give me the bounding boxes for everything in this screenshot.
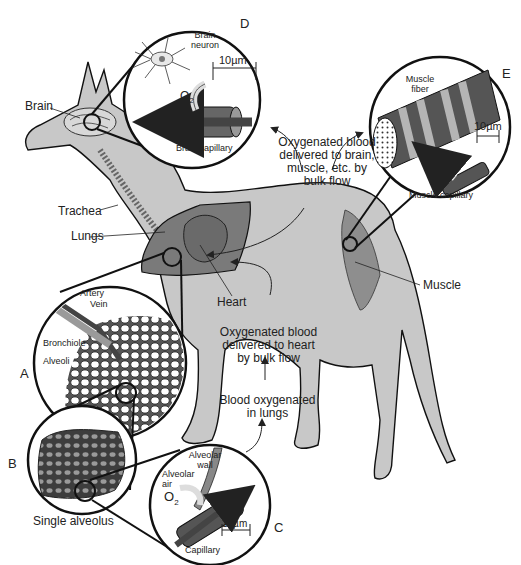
bronchiole-label: Bronchiole <box>43 338 86 348</box>
heart-label: Heart <box>217 296 246 309</box>
brain-organ <box>64 108 116 136</box>
vein-label: Vein <box>90 299 108 309</box>
panel-c-scale-label: 10µm <box>222 517 247 530</box>
brain-neuron-label: Brain neuron <box>180 30 230 50</box>
muscle-label: Muscle <box>423 279 461 292</box>
capillary-label: Capillary <box>185 545 220 555</box>
flow-label-to-tissues: Oxygenated blood delivered to brain, mus… <box>262 136 392 188</box>
muscle-capillary-label: Muscle capillary <box>409 190 473 200</box>
alveolar-wall-label: Alveolar wall <box>185 450 225 470</box>
panel-e-o2-label: O2 <box>420 150 434 167</box>
flow-label-in-lungs: Blood oxygenated in lungs <box>210 394 325 420</box>
muscle-fiber-label: Muscle fiber <box>400 74 440 94</box>
panel-d-scale-label: 10µm <box>219 54 247 67</box>
brain-label: Brain <box>25 100 53 113</box>
panel-d-letter: D <box>240 17 249 30</box>
panel-c-o2-label: O2 <box>164 490 179 509</box>
panel-b-letter: B <box>8 457 17 470</box>
alveoli-label: Alveoli <box>43 356 70 366</box>
alveolar-air-label: Alveolar air <box>162 469 195 489</box>
panel-e-scale-label: 10µm <box>474 120 502 133</box>
trachea-label: Trachea <box>58 205 102 218</box>
panel-c-letter: C <box>274 521 283 534</box>
single-alveolus-label: Single alveolus <box>33 515 114 528</box>
panel-a-letter: A <box>20 367 29 380</box>
flow-label-to-heart: Oxygenated blood delivered to heart by b… <box>211 326 326 365</box>
lungs-label: Lungs <box>71 230 104 243</box>
artery-label: Artery <box>80 288 104 298</box>
panel-d-o2-label: O2 <box>180 90 194 107</box>
panel-e-letter: E <box>502 67 511 80</box>
brain-capillary-label: Brain capillary <box>176 143 233 153</box>
